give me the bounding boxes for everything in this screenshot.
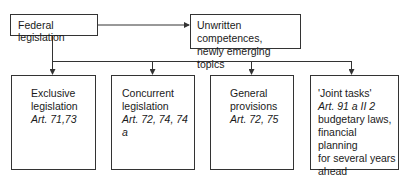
child-node-article: Art. 72, 74, 74 a	[122, 113, 194, 139]
child-node-general-provisions: General provisions Art. 72, 75	[210, 75, 294, 170]
child-node-line: General	[230, 87, 293, 100]
root-node: Federal legislation	[10, 14, 98, 36]
child-node-article: Art. 91 a II 2	[318, 100, 398, 113]
side-node-unwritten-competences: Unwritten competences, newly emerging to…	[190, 14, 301, 49]
child-node-line: Exclusive	[31, 87, 95, 100]
child-node-line: legislation	[31, 100, 95, 113]
child-node-concurrent-legislation: Concurrent legislation Art. 72, 74, 74 a	[111, 75, 195, 170]
child-node-line: provisions	[230, 100, 293, 113]
side-node-line: newly emerging topics	[197, 45, 300, 71]
child-node-article: Art. 72, 75	[230, 113, 293, 126]
child-node-line: for several years	[318, 152, 398, 165]
root-node-label: Federal legislation	[18, 19, 65, 43]
child-node-joint-tasks: 'Joint tasks' Art. 91 a II 2 budgetary l…	[310, 75, 399, 170]
child-node-line: budgetary laws,	[318, 113, 398, 126]
child-node-article: Art. 109 III	[318, 178, 398, 180]
child-node-line: legislation	[122, 100, 194, 113]
child-node-line: ahead	[318, 165, 398, 178]
child-node-line: financial planning	[318, 126, 398, 152]
child-node-exclusive-legislation: Exclusive legislation Art. 71,73	[11, 75, 96, 170]
child-node-article: Art. 71,73	[31, 113, 95, 126]
child-node-line: 'Joint tasks'	[318, 87, 398, 100]
side-node-line: Unwritten competences,	[197, 19, 300, 45]
child-node-line: Concurrent	[122, 87, 194, 100]
